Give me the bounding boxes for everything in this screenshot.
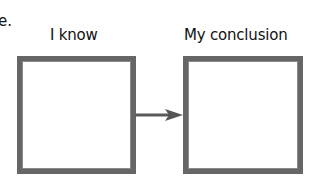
i-know-box: [17, 56, 136, 174]
my-conclusion-box: [183, 56, 303, 174]
cropped-text-fragment: e.: [0, 12, 12, 30]
label-i-know: I know: [50, 26, 98, 44]
right-arrow-icon: [135, 108, 185, 122]
label-my-conclusion: My conclusion: [184, 26, 288, 44]
